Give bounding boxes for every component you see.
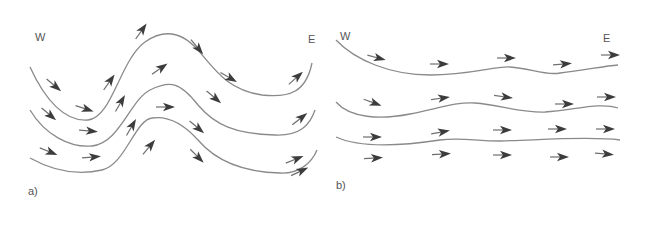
arrow-icon [140, 137, 159, 157]
arrow-icon [493, 126, 512, 134]
arrow-icon [597, 93, 616, 101]
arrow-icon [430, 126, 450, 138]
arrow-icon [39, 105, 59, 124]
west-label-a: W [35, 31, 45, 43]
streamline-a-2 [30, 84, 315, 146]
arrow-icon [112, 93, 129, 114]
arrow-icon [362, 95, 383, 109]
arrow-icon [79, 126, 99, 136]
arrow-icon [493, 151, 512, 159]
arrow-icon [188, 37, 207, 57]
panel-label-b: b) [336, 179, 346, 191]
east-label-b: E [603, 32, 610, 44]
arrow-icon [187, 118, 207, 137]
arrow-icon [431, 93, 451, 104]
arrow-icon [432, 149, 451, 158]
arrow-icon [44, 76, 64, 95]
panel-b-zonal [336, 40, 620, 163]
arrow-icon [601, 51, 620, 59]
arrow-icon [555, 100, 574, 108]
arrow-icon [74, 102, 95, 116]
east-label-a: E [308, 33, 315, 45]
arrow-icon [430, 60, 449, 68]
arrow-icon [548, 125, 567, 133]
wind-flow-diagram [0, 0, 649, 225]
arrow-icon [82, 152, 102, 162]
arrow-icon [553, 59, 573, 69]
arrow-icon [497, 54, 516, 62]
panel-label-a: a) [28, 185, 38, 197]
arrow-icon [38, 144, 59, 159]
arrow-icon [494, 91, 514, 102]
arrow-icon [150, 60, 170, 78]
arrow-icon [364, 153, 383, 162]
arrow-icon [363, 133, 382, 141]
arrow-icon [218, 69, 239, 86]
arrow-icon [284, 152, 305, 167]
arrow-icon [123, 117, 140, 138]
arrow-icon [204, 88, 224, 107]
panel-a-meridional [30, 21, 317, 179]
arrow-icon [550, 153, 569, 161]
arrow-icon [156, 103, 175, 111]
west-label-b: W [340, 30, 350, 42]
arrow-icon [595, 149, 615, 159]
arrow-icon [132, 21, 150, 41]
arrow-icon [187, 146, 206, 165]
streamline-a-3 [30, 118, 317, 174]
arrow-icon [596, 125, 615, 133]
